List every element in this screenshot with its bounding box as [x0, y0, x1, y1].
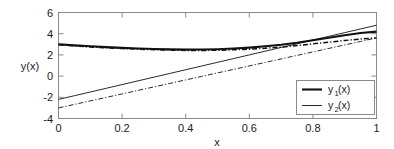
- chart-figure: 6 4 2 0 -2 -4 0 0.2 0.4 0.6 0.8 1 y(x) x…: [0, 0, 394, 149]
- y-tick-label: 0: [47, 70, 53, 82]
- y-axis-label: y(x): [21, 60, 39, 72]
- legend-label-y1-base: y: [328, 83, 334, 95]
- legend-label-y1-suffix: (x): [338, 83, 350, 95]
- legend-label-y2-base: y: [328, 99, 334, 111]
- legend-label-y2-suffix: (x): [338, 99, 350, 111]
- y-tick-label: 6: [47, 7, 53, 19]
- x-tick-label: 0.8: [305, 122, 320, 134]
- y-tick-label: 4: [47, 28, 53, 40]
- y-tick-labels: 6 4 2 0 -2 -4: [43, 7, 53, 125]
- x-tick-label: 0: [55, 122, 61, 134]
- chart-legend[interactable]: y 1 (x) y 2 (x): [297, 81, 375, 115]
- y-tick-label: 2: [47, 49, 53, 61]
- x-tick-label: 0.2: [114, 122, 129, 134]
- y-tick-label: -4: [43, 113, 53, 125]
- x-tick-label: 0.4: [178, 122, 193, 134]
- x-axis-label: x: [214, 136, 220, 148]
- x-tick-labels: 0 0.2 0.4 0.6 0.8 1: [55, 122, 379, 134]
- x-tick-label: 1: [373, 122, 379, 134]
- chart-svg: 6 4 2 0 -2 -4 0 0.2 0.4 0.6 0.8 1 y(x) x…: [0, 0, 394, 149]
- x-tick-label: 0.6: [242, 122, 257, 134]
- curve-y1-x-curve: [59, 32, 377, 50]
- y-tick-label: -2: [43, 91, 53, 103]
